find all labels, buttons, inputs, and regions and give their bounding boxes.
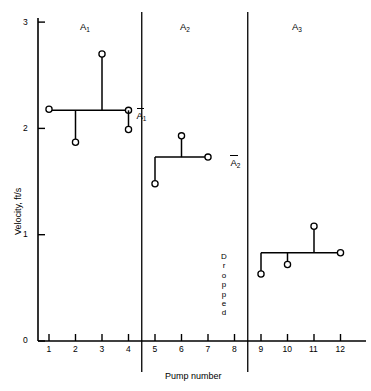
group-separator-lines <box>142 12 248 372</box>
group-label-a2: A2 <box>180 22 190 32</box>
dropped-annotation: Dropped <box>219 252 229 318</box>
y-tick-label-2: 2 <box>23 124 28 133</box>
group-label-a1: A1 <box>80 22 90 32</box>
y-axis-ticks <box>38 22 45 341</box>
data-point-pump-9 <box>258 271 264 277</box>
x-tick-label-3: 3 <box>100 345 105 354</box>
x-tick-label-9: 9 <box>259 345 264 354</box>
y-tick-label-0: 0 <box>23 336 28 345</box>
mean-marker-A3 <box>337 250 343 256</box>
data-series <box>46 51 344 277</box>
dropped-letter: e <box>219 299 229 308</box>
x-tick-label-10: 10 <box>283 345 292 354</box>
dropped-letter: D <box>219 252 229 261</box>
x-tick-label-8: 8 <box>232 345 237 354</box>
chart-plot-area <box>0 0 371 391</box>
x-tick-label-5: 5 <box>153 345 158 354</box>
x-tick-label-6: 6 <box>179 345 184 354</box>
y-axis-title: Velocity, ft/s <box>14 188 23 235</box>
dropped-letter: d <box>219 308 229 317</box>
mean-label-a2: A2 <box>230 157 240 168</box>
x-tick-label-12: 12 <box>336 345 345 354</box>
x-tick-label-11: 11 <box>309 345 318 354</box>
mean-label-a1: A1 <box>137 110 147 121</box>
data-point-pump-5 <box>152 181 158 187</box>
x-axis-title: Pump number <box>165 372 222 381</box>
dropped-letter: p <box>219 280 229 289</box>
data-point-pump-11 <box>311 223 317 229</box>
dropped-letter: o <box>219 271 229 280</box>
x-axis-ticks <box>49 334 341 341</box>
mean-marker-A2 <box>205 154 211 160</box>
y-tick-label-3: 3 <box>23 18 28 27</box>
dropped-letter: p <box>219 290 229 299</box>
data-point-pump-6 <box>178 133 184 139</box>
y-tick-label-1: 1 <box>23 230 28 239</box>
x-tick-label-2: 2 <box>73 345 78 354</box>
data-point-pump-3 <box>99 51 105 57</box>
x-tick-label-4: 4 <box>126 345 131 354</box>
data-point-pump-10 <box>284 261 290 267</box>
velocity-vs-pump-chart: 3 2 1 0 Velocity, ft/s 123456789101112 P… <box>0 0 371 391</box>
x-tick-label-1: 1 <box>47 345 52 354</box>
x-tick-label-7: 7 <box>206 345 211 354</box>
group-label-a3: A3 <box>292 22 302 32</box>
data-point-pump-1 <box>46 106 52 112</box>
data-point-pump-4 <box>125 126 131 132</box>
data-point-pump-2 <box>72 139 78 145</box>
dropped-letter: r <box>219 261 229 270</box>
